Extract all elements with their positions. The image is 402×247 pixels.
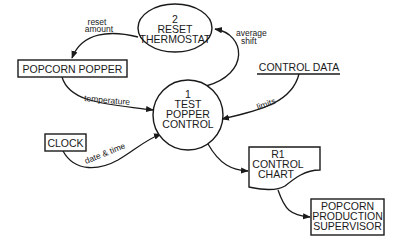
flow-limits-label: limits bbox=[255, 96, 277, 112]
process-2-line-2: THERMOSTAT bbox=[140, 33, 211, 45]
flow-limits-arrow bbox=[222, 74, 299, 119]
flow-p1-to-control-chart bbox=[208, 144, 248, 171]
process-reset-thermostat[interactable]: 2 RESET THERMOSTAT bbox=[138, 4, 212, 52]
flow-reset-amount-label-2: amount bbox=[85, 24, 114, 34]
clock-label: CLOCK bbox=[47, 137, 83, 149]
flow-average-shift-arrow bbox=[206, 29, 239, 86]
control-data-label: CONTROL DATA bbox=[259, 61, 339, 73]
flow-average-shift: average shift bbox=[206, 28, 267, 86]
document-control-chart[interactable]: R1 CONTROL CHART bbox=[249, 147, 320, 190]
process-test-popper-control[interactable]: 1 TEST POPPER CONTROL bbox=[153, 80, 223, 150]
data-flow-diagram: reset amount average shift temperature l… bbox=[0, 0, 402, 247]
flow-limits: limits bbox=[222, 74, 299, 119]
flow-reset-amount: reset amount bbox=[72, 17, 138, 58]
flow-reset-amount-arrow bbox=[72, 34, 138, 58]
external-clock[interactable]: CLOCK bbox=[45, 134, 86, 151]
external-popcorn-popper[interactable]: POPCORN POPPER bbox=[18, 60, 127, 77]
process-1-line-3: CONTROL bbox=[162, 118, 213, 130]
supervisor-line-3: SUPERVISOR bbox=[313, 220, 382, 232]
flow-temperature-label: temperature bbox=[84, 93, 131, 107]
popcorn-popper-label: POPCORN POPPER bbox=[23, 63, 123, 75]
control-chart-line-3: CHART bbox=[258, 168, 295, 180]
flow-temperature: temperature bbox=[62, 77, 153, 110]
flow-average-shift-label-2: shift bbox=[241, 36, 257, 46]
flow-date-time-label: date & time bbox=[83, 140, 127, 165]
flow-control-chart-to-supervisor bbox=[278, 190, 310, 217]
datastore-control-data[interactable]: CONTROL DATA bbox=[257, 61, 340, 74]
external-production-supervisor[interactable]: POPCORN PRODUCTION SUPERVISOR bbox=[311, 199, 384, 235]
